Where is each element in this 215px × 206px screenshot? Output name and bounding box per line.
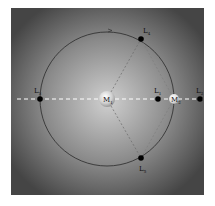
body-m1: M1 [99,91,115,107]
lagrange-diagram: M1 M2 L1 L2 L3 L4 L5 [0,0,215,206]
